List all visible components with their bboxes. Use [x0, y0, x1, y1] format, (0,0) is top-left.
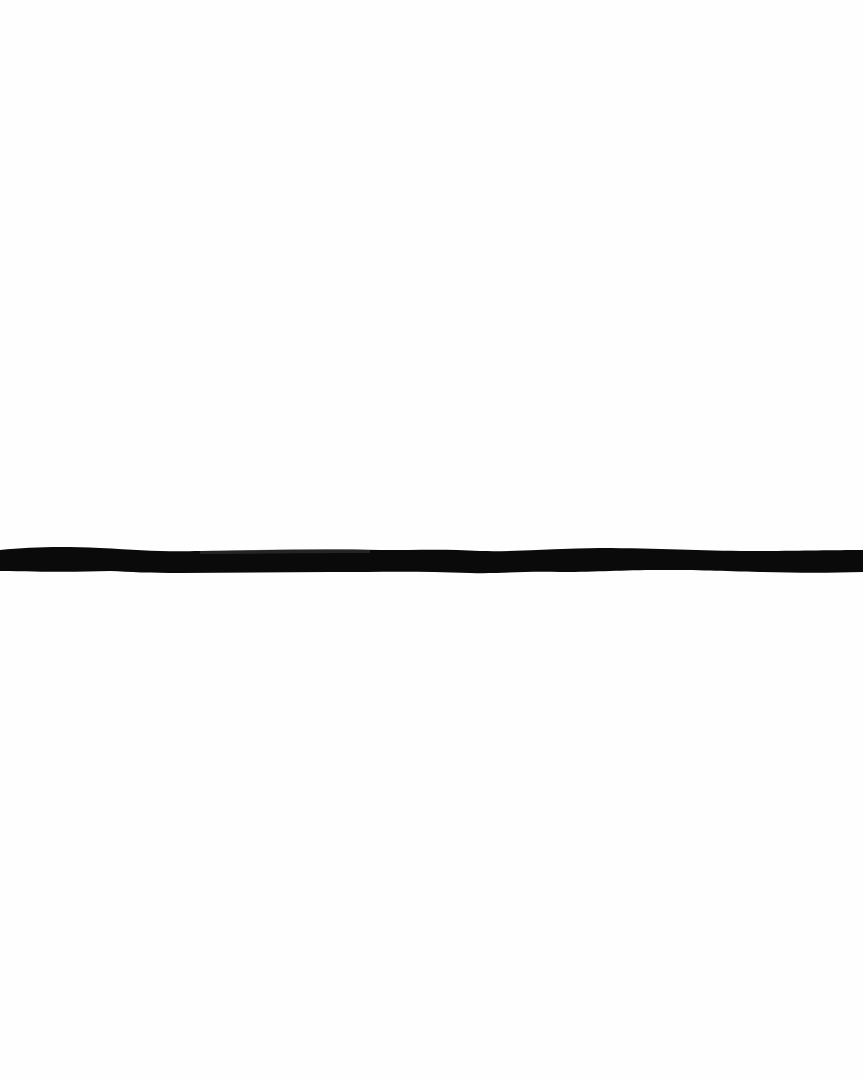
brushstroke: [0, 530, 863, 590]
paper-canvas: [0, 0, 863, 1080]
brushstroke-path: [0, 547, 863, 573]
